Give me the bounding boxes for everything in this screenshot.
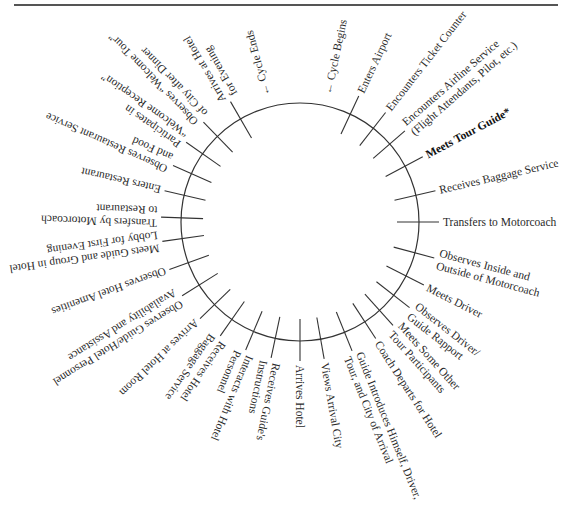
step-label-line: Transfers to Motorcoach — [443, 216, 557, 228]
spoke-line — [360, 112, 386, 145]
spokes-group — [161, 96, 439, 361]
step-label: Transfers by Motorcoachto Restaurant — [41, 200, 158, 229]
spoke-line — [186, 142, 220, 166]
spoke-line — [341, 96, 359, 134]
spoke-line — [386, 266, 423, 285]
spoke-line — [365, 294, 393, 325]
spoke-line — [220, 301, 244, 335]
step-label: Arrives Hotel — [294, 365, 306, 428]
spoke-line — [373, 131, 405, 159]
step-label: Guide Introduces Himself, Driver,Tour, a… — [341, 350, 424, 506]
spoke-line — [173, 165, 211, 182]
svg-text:← Cycle Begins: ← Cycle Begins — [321, 18, 350, 96]
cycle-begins-marker: ← Cycle Begins — [321, 18, 350, 96]
spoke-line — [336, 312, 352, 351]
step-label-line: to Restaurant — [95, 202, 157, 216]
step-label: Enters Airport — [355, 30, 395, 96]
cycle-markers: ← Cycle Begins← Cycle Ends — [243, 18, 350, 97]
step-label-line: Arrives Hotel — [294, 365, 306, 428]
service-cycle-diagram: Enters AirportEncounters Ticket CounterE… — [0, 0, 571, 521]
spoke-line — [182, 273, 218, 295]
labels-group: Enters AirportEncounters Ticket CounterE… — [7, 8, 560, 506]
cycle-ends-marker: ← Cycle Ends — [243, 28, 273, 97]
spoke-line — [386, 157, 423, 177]
spoke-line — [161, 217, 203, 218]
step-label-line: Views Arrival City — [318, 362, 346, 450]
spoke-line — [231, 102, 252, 138]
spoke-line — [246, 311, 262, 350]
step-label: Encounters Airline Service(Flight Attend… — [400, 29, 520, 138]
step-label: Enters Restaurant — [79, 165, 162, 195]
step-label: Views Arrival City — [318, 362, 346, 450]
step-label: Transfers to Motorcoach — [443, 216, 557, 228]
step-label-line: Enters Airport — [355, 30, 395, 96]
step-label-line: Enters Restaurant — [79, 165, 162, 195]
step-label-line: Guide Introduces Himself, Driver, — [353, 350, 424, 501]
cycle-circle — [181, 103, 419, 341]
step-label-line: Receives Baggage Service — [438, 157, 560, 197]
step-label: Meets Guide and Group in HotelLobby for … — [7, 229, 160, 276]
svg-text:← Cycle Ends: ← Cycle Ends — [243, 28, 273, 97]
step-label: Receives Baggage Service — [438, 157, 560, 197]
spoke-line — [162, 235, 204, 241]
spoke-line — [353, 303, 376, 338]
step-label: Observes Inside andOutside of Motorcoach — [435, 247, 545, 299]
spoke-line — [169, 255, 208, 269]
spoke-line — [376, 282, 409, 308]
